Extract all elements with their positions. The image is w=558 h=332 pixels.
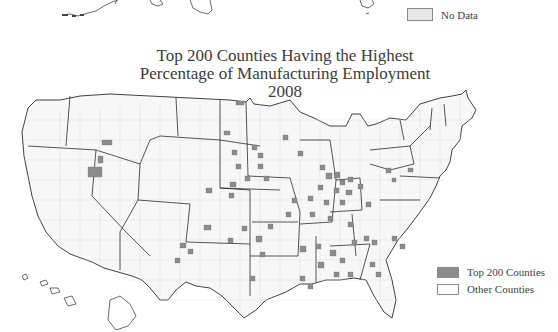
legend-label-top-200: Top 200 Counties bbox=[467, 266, 545, 278]
legend-swatch-other bbox=[437, 284, 459, 295]
legend-label-no-data: No Data bbox=[441, 9, 478, 21]
map-title-line-2: Percentage of Manufacturing Employment bbox=[135, 65, 435, 83]
us-map bbox=[22, 90, 476, 330]
map-title-line-3: 2008 bbox=[135, 83, 435, 101]
legend-swatch-top-200 bbox=[437, 267, 459, 278]
contiguous-us-outline bbox=[22, 90, 476, 318]
legend-item-no-data: No Data bbox=[407, 8, 478, 21]
map-title: Top 200 Counties Having the Highest Perc… bbox=[135, 47, 435, 101]
legend-label-other: Other Counties bbox=[467, 283, 534, 295]
legend-item-top-200: Top 200 Counties bbox=[437, 266, 545, 278]
previous-map-fragment bbox=[62, 0, 374, 16]
map-title-line-1: Top 200 Counties Having the Highest bbox=[135, 47, 435, 65]
legend-swatch-no-data bbox=[407, 8, 433, 21]
legend-item-other: Other Counties bbox=[437, 283, 534, 295]
